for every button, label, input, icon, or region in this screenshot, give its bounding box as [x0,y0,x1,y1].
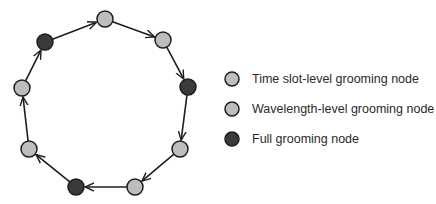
legend-markers [225,72,239,146]
ring-edge-arrow [113,22,155,37]
grooming-node [127,179,143,195]
ring-edge-arrow [142,154,174,181]
ring-edge-arrow [26,50,41,81]
grooming-node [14,80,30,96]
ring-edge-arrow [36,155,70,182]
legend-marker-full [225,132,239,146]
ring-edge-arrow [167,47,184,79]
legend-marker-wavelength [225,102,239,116]
legend-label-full: Full grooming node [252,132,359,146]
ring-edge-arrow [181,95,187,140]
grooming-node [155,32,171,48]
ring-nodes [14,11,196,195]
legend-label-time-slot: Time slot-level grooming node [252,72,419,86]
grooming-node [21,141,37,157]
full-grooming-node [37,34,53,50]
full-grooming-node [68,179,84,195]
legend-marker-time-slot [225,72,239,86]
grooming-node [172,141,188,157]
ring-edge-arrow [23,97,28,141]
grooming-node [97,11,113,27]
ring-edge-arrow [52,22,96,39]
full-grooming-node [180,79,196,95]
legend-label-wavelength: Wavelength-level grooming node [252,102,434,116]
